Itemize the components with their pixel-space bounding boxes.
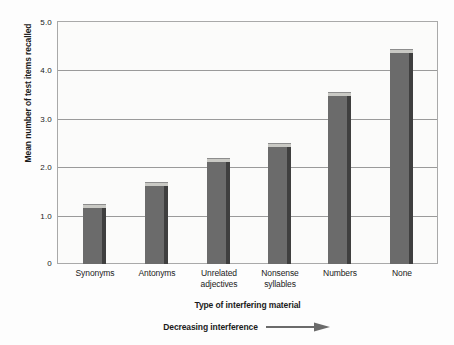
x-label-line2: syllables [240, 279, 320, 290]
x-label-line1: Unrelated [201, 268, 237, 278]
x-label-line1: None [392, 268, 412, 278]
y-tick-label: 3.0 [6, 114, 52, 123]
y-axis-tick-labels: 5.0 4.0 3.0 2.0 1.0 0 [0, 21, 52, 264]
x-axis-category-labels: Synonyms Antonyms Unrelated adjectives N… [57, 268, 438, 298]
gridline-4 [58, 70, 437, 71]
arrow-right-icon [266, 321, 332, 333]
x-label-line1: Synonyms [76, 268, 115, 278]
y-tick-label: 1.0 [6, 211, 52, 220]
y-tick-label: 2.0 [6, 163, 52, 172]
y-tick-label: 0 [6, 259, 52, 268]
footer-annotation-label: Decreasing interference [163, 322, 258, 332]
x-label-line1: Nonsense [261, 268, 298, 278]
bar-chart-figure: Mean number of test items recalled 5.0 4… [0, 0, 454, 345]
x-label-line1: Numbers [323, 268, 357, 278]
y-tick-label: 4.0 [6, 66, 52, 75]
gridline-1 [58, 216, 437, 217]
x-axis-title: Type of interfering material [57, 300, 438, 310]
gridline-3 [58, 119, 437, 120]
x-label-none: None [362, 268, 442, 279]
footer-annotation: Decreasing interference [57, 321, 438, 333]
gridline-2 [58, 167, 437, 168]
plot-area [57, 21, 438, 264]
x-label-line1: Antonyms [139, 268, 176, 278]
y-tick-label: 5.0 [6, 18, 52, 27]
